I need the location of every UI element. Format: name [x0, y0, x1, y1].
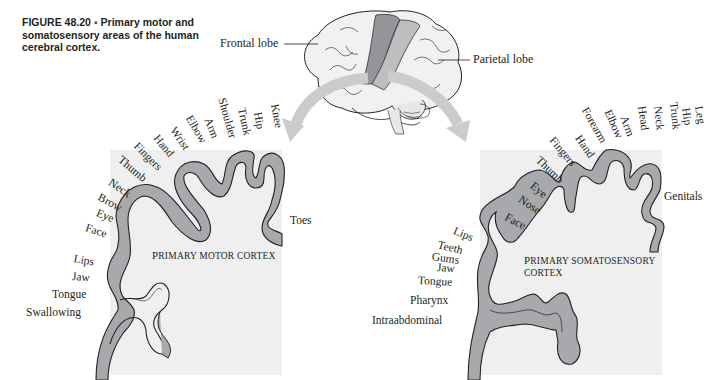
- sensory-area-label-line2: CORTEX: [524, 267, 656, 279]
- frontal-lobe-label: Frontal lobe: [220, 36, 278, 51]
- cortex-diagram: [0, 0, 725, 380]
- brain-illustration: [305, 11, 462, 134]
- sensory-area-label: PRIMARY SOMATOSENSORY CORTEX: [524, 254, 656, 279]
- motor-label-swallowing: Swallowing: [26, 306, 81, 318]
- motor-label-toes: Toes: [290, 214, 312, 226]
- sensory-label-tongue: Tongue: [418, 274, 453, 288]
- motor-area-label: PRIMARY MOTOR CORTEX: [152, 249, 276, 262]
- sensory-label-genitals: Genitals: [664, 190, 702, 202]
- sensory-label-neck: Neck: [652, 105, 666, 130]
- sensory-label-pharynx: Pharynx: [410, 294, 448, 306]
- sensory-label-intraabdominal: Intraabdominal: [372, 314, 442, 326]
- parietal-lobe-label: Parietal lobe: [473, 52, 533, 67]
- motor-label-jaw: Jaw: [72, 270, 91, 283]
- sensory-area-label-line1: PRIMARY SOMATOSENSORY: [524, 254, 656, 267]
- motor-label-tongue: Tongue: [52, 288, 86, 300]
- sensory-label-jaw: Jaw: [437, 261, 456, 274]
